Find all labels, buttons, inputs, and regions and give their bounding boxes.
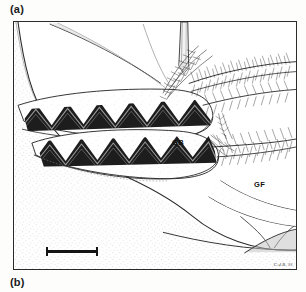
scale-bar-line [46,250,98,252]
panel-label-b: (b) [10,277,25,288]
annotation-gf: GF [254,181,265,189]
scale-bar [46,247,98,256]
figure-page: (a) [0,0,306,292]
scale-bar-cap-right [96,247,98,256]
illustration-canvas [14,22,296,269]
annotation-gb: GB [172,139,184,147]
figure-frame: GB GF C.d.B. 91 [13,21,297,270]
panel-label-a: (a) [10,4,24,15]
needle-probe [179,22,189,74]
artist-signature: C.d.B. 91 [274,262,293,267]
